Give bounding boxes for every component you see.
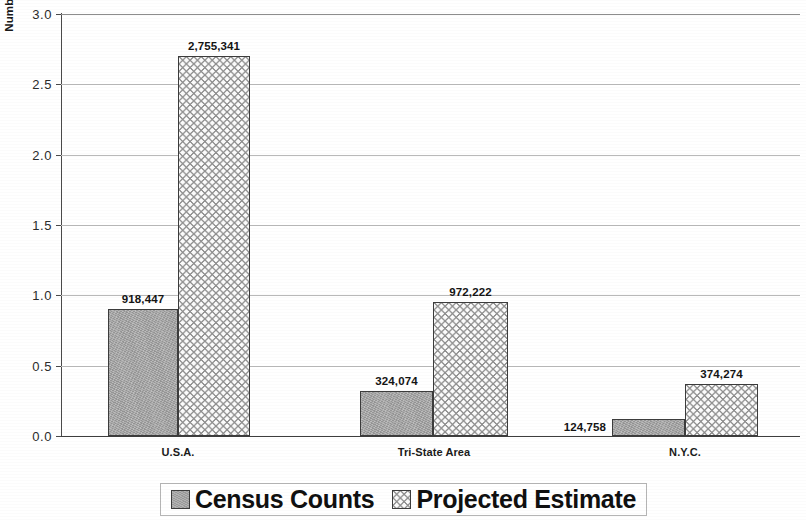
bar-nyc-projected: 374,274 <box>685 384 758 436</box>
gridline: 2.5 <box>61 84 800 85</box>
legend-swatch-icon <box>171 490 190 509</box>
legend-swatch-icon <box>392 490 411 509</box>
bar-value-label: 324,074 <box>375 375 417 387</box>
legend-entry-projected-estimate: Projected Estimate <box>392 487 636 512</box>
y-axis-tick <box>56 225 61 226</box>
bar-chart: Number of Italian Speakers (in Millions)… <box>0 0 806 520</box>
bar-tristate-census: 324,074 <box>360 391 433 436</box>
legend-entry-census-counts: Census Counts <box>171 487 374 512</box>
chart-legend: Census Counts Projected Estimate <box>160 483 647 516</box>
gridline: 0.0 <box>61 436 800 437</box>
x-axis-label-usa: U.S.A. <box>162 446 195 458</box>
y-axis-tick-label: 1.0 <box>32 288 52 303</box>
y-axis-tick <box>56 436 61 437</box>
bar-value-label: 918,447 <box>122 293 164 305</box>
y-axis-tick-label: 3.0 <box>32 7 52 22</box>
y-axis-tick <box>56 155 61 156</box>
x-axis-label-tristate: Tri-State Area <box>398 446 471 458</box>
gridline: 3.0 <box>61 14 800 15</box>
x-axis-label-nyc: N.Y.C. <box>669 446 701 458</box>
bar-usa-census: 918,447 <box>108 309 178 436</box>
y-axis-tick <box>56 14 61 15</box>
y-axis-tick <box>56 84 61 85</box>
y-axis-tick-label: 1.5 <box>32 218 52 233</box>
y-axis-tick-label: 2.5 <box>32 77 52 92</box>
gridline: 2.0 <box>61 155 800 156</box>
bar-value-label: 2,755,341 <box>188 40 240 52</box>
bar-tristate-projected: 972,222 <box>433 302 508 436</box>
y-axis-tick <box>56 366 61 367</box>
bar-value-label: 972,222 <box>449 286 491 298</box>
y-axis-title: Number of Italian Speakers (in Millions) <box>0 0 18 92</box>
plot-area: 3.02.52.01.51.00.50.0 918,447 2,755,341 … <box>61 14 800 436</box>
y-axis-tick-label: 0.5 <box>32 358 52 373</box>
bar-usa-projected: 2,755,341 <box>178 56 250 436</box>
bar-value-label: 124,758 <box>564 421 606 433</box>
gridline: 1.5 <box>61 225 800 226</box>
legend-label: Projected Estimate <box>416 487 636 512</box>
y-axis-tick <box>56 295 61 296</box>
y-axis-tick-label: 0.0 <box>32 429 52 444</box>
bar-value-label: 374,274 <box>700 368 742 380</box>
gridline: 1.0 <box>61 295 800 296</box>
legend-label: Census Counts <box>195 487 374 512</box>
bar-nyc-census: 124,758 <box>612 419 685 436</box>
y-axis-tick-label: 2.0 <box>32 147 52 162</box>
